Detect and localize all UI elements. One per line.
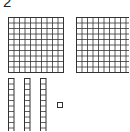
rod-outline [25,79,31,132]
ones-units [58,103,63,108]
ten-rod [41,79,47,132]
base-ten-blocks-diagram [0,0,129,131]
hundred-flat [77,18,130,73]
ten-rod [9,79,15,132]
rod-outline [41,79,47,132]
rod-outline [9,79,15,132]
ten-rod [25,79,31,132]
hundred-flat [9,18,64,73]
one-unit [58,103,63,108]
hundreds-flats [9,18,130,73]
tens-rods [9,79,47,132]
